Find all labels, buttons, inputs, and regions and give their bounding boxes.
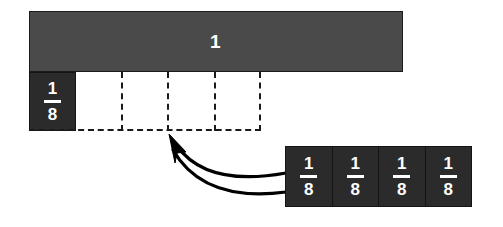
eighth-tile-4: 1 8 xyxy=(425,146,473,207)
fraction-bar-icon xyxy=(393,175,410,178)
dashed-right-edge xyxy=(259,72,261,131)
fraction-bar-icon xyxy=(440,175,457,178)
eighth-tile-left: 1 8 xyxy=(29,72,76,131)
fraction-one-eighth: 1 8 xyxy=(440,155,457,198)
arrowhead-icon xyxy=(169,134,186,163)
fraction-denominator: 8 xyxy=(444,180,453,198)
fraction-one-eighth: 1 8 xyxy=(393,155,410,198)
fraction-denominator: 8 xyxy=(48,105,57,123)
fraction-denominator: 8 xyxy=(397,180,406,198)
fraction-bar-icon xyxy=(347,175,364,178)
dashed-divider-1 xyxy=(121,72,123,131)
fraction-one-eighth: 1 8 xyxy=(44,80,61,123)
whole-bar: 1 xyxy=(29,11,403,72)
fraction-one-eighth: 1 8 xyxy=(347,155,364,198)
eighth-tile-1: 1 8 xyxy=(285,146,333,207)
fraction-one-eighth: 1 8 xyxy=(300,155,317,198)
dashed-divider-2 xyxy=(167,72,169,131)
fraction-numerator: 1 xyxy=(48,80,57,98)
whole-bar-label: 1 xyxy=(210,32,221,51)
fraction-numerator: 1 xyxy=(351,155,360,173)
fraction-numerator: 1 xyxy=(444,155,453,173)
eighth-tile-2: 1 8 xyxy=(332,146,380,207)
fraction-denominator: 8 xyxy=(351,180,360,198)
arrow-stroke-upper xyxy=(177,146,286,177)
fraction-bar-icon xyxy=(44,100,61,103)
arrow-stroke-lower xyxy=(173,150,286,194)
fraction-numerator: 1 xyxy=(397,155,406,173)
eighths-strip: 1 8 1 8 1 8 1 8 xyxy=(285,146,475,207)
dashed-bottom-line xyxy=(29,129,261,131)
fraction-diagram-canvas: 1 1 8 1 8 xyxy=(0,0,503,227)
dashed-partition-region xyxy=(76,72,261,131)
fraction-bar-icon xyxy=(300,175,317,178)
dashed-divider-3 xyxy=(214,72,216,131)
eighth-tile-3: 1 8 xyxy=(378,146,426,207)
double-curved-arrow-icon xyxy=(173,146,286,194)
fraction-numerator: 1 xyxy=(304,155,313,173)
fraction-denominator: 8 xyxy=(304,180,313,198)
